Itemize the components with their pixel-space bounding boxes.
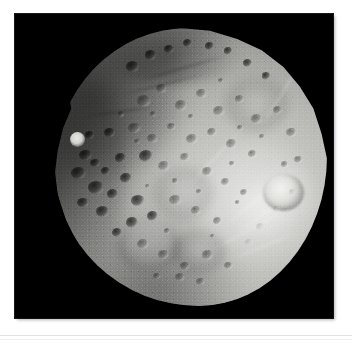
crater [273, 206, 281, 213]
crater [196, 278, 205, 285]
phobos-photograph [15, 14, 333, 318]
crater [202, 167, 213, 176]
bright-ejecta-crater-right [263, 174, 304, 212]
crater [226, 139, 237, 148]
crater [104, 128, 115, 137]
crater [88, 181, 104, 194]
crater [294, 156, 302, 163]
crater [229, 161, 234, 166]
sheet-rule-primary [0, 335, 352, 336]
upper-rough-terrain [93, 28, 245, 84]
crater [289, 189, 297, 196]
crater [186, 134, 198, 144]
crater [131, 195, 145, 207]
crater [196, 189, 201, 194]
sheet-rule-secondary [0, 339, 352, 340]
crater [240, 189, 248, 196]
crater [248, 150, 257, 158]
crater [158, 161, 169, 171]
crater [256, 223, 266, 231]
crater [158, 250, 169, 259]
phobos-body [55, 28, 327, 306]
basin-lower-left [118, 223, 181, 270]
crater [71, 167, 86, 179]
crater [205, 42, 215, 50]
crater [145, 184, 150, 189]
space-background [15, 14, 333, 318]
crater [167, 123, 176, 131]
crater [218, 78, 224, 83]
crater [180, 153, 190, 161]
crater [221, 178, 230, 186]
crater [281, 161, 288, 167]
crater [137, 95, 151, 107]
crater [137, 239, 149, 249]
crater [235, 95, 245, 103]
page-canvas [0, 0, 352, 344]
crater [237, 125, 242, 130]
crater [188, 114, 193, 119]
bottom-limb-shadow [71, 223, 261, 306]
crater [77, 198, 89, 207]
crater [101, 167, 110, 175]
crater [150, 111, 156, 116]
crater [79, 150, 92, 160]
crater [120, 173, 132, 183]
crater [172, 178, 179, 184]
crater [213, 217, 222, 225]
crater [262, 72, 271, 79]
crater [180, 262, 190, 270]
crater [139, 150, 153, 162]
crater [243, 59, 253, 67]
crater [147, 134, 158, 143]
crater [202, 250, 213, 259]
crater [115, 153, 126, 162]
crater [224, 47, 233, 55]
crater [145, 50, 156, 59]
crater [183, 39, 192, 47]
crater [175, 100, 188, 111]
specular-highlight [196, 139, 321, 272]
crater [207, 128, 217, 136]
crater [286, 128, 296, 137]
crater [107, 189, 118, 199]
crater [164, 228, 171, 234]
crater [85, 131, 94, 139]
crater [147, 211, 158, 220]
crater [175, 273, 185, 281]
crater [153, 273, 161, 280]
groove-striation [231, 232, 297, 260]
groove-striation [222, 165, 301, 227]
crater [235, 200, 241, 205]
crater [126, 217, 139, 228]
crater [245, 239, 254, 246]
crater [169, 195, 182, 206]
crater [156, 84, 167, 93]
crater [273, 106, 282, 114]
crater [118, 111, 125, 117]
crater [213, 106, 225, 116]
crater [210, 234, 215, 239]
crater [134, 139, 140, 144]
crater [126, 61, 140, 72]
crater [251, 114, 262, 123]
crater [96, 206, 110, 217]
crater [196, 89, 206, 98]
crater [259, 134, 265, 139]
left-limb-shadow [55, 56, 126, 284]
crater [191, 206, 201, 215]
crater [128, 123, 141, 134]
crater [224, 262, 233, 270]
crater [112, 228, 122, 237]
crater [164, 45, 174, 53]
crater [90, 159, 100, 167]
bright-crater-left-limb [70, 132, 85, 147]
